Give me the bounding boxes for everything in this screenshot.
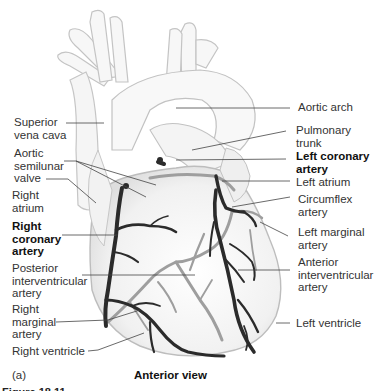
label-right-marginal-artery: Right marginal artery [12,303,56,341]
label-pulmonary-trunk: Pulmonary trunk [296,124,351,149]
view-title: Anterior view [134,369,207,381]
label-right-ventricle: Right ventricle [12,345,85,358]
label-aortic-arch: Aortic arch [298,101,353,114]
coronary-circulation-diagram: Superior vena cava Aortic semilunar valv… [0,0,382,391]
label-posterior-interventricular-artery: Posterior interventricular artery [12,262,87,300]
label-left-ventricle: Left ventricle [296,317,361,330]
label-anterior-interventricular-artery: Anterior interventricular artery [298,256,373,294]
label-left-atrium: Left atrium [296,176,350,189]
figure-caption-cut: Figure 18.11 [2,386,66,391]
label-superior-vena-cava: Superior vena cava [14,116,66,141]
label-left-marginal-artery: Left marginal artery [298,226,364,251]
label-left-coronary-artery: Left coronary artery [296,150,370,175]
label-aortic-semilunar-valve: Aortic semilunar valve [14,147,64,185]
label-circumflex-artery: Circumflex artery [298,193,352,218]
label-right-atrium: Right atrium [12,189,44,214]
label-right-coronary-artery: Right coronary artery [12,220,61,258]
panel-label: (a) [12,369,26,381]
